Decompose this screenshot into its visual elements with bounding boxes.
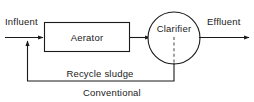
- influent-label: Influent: [5, 16, 38, 27]
- aerator-label: Aerator: [71, 32, 104, 43]
- recycle-sludge-label: Recycle sludge: [66, 68, 133, 79]
- effluent-label: Effluent: [207, 16, 241, 27]
- process-flow-diagram: Influent Aerator Clarifier Effluent Recy…: [0, 0, 254, 102]
- diagram-canvas: Influent Aerator Clarifier Effluent Recy…: [0, 0, 254, 102]
- diagram-caption: Conventional: [83, 87, 141, 98]
- clarifier-label: Clarifier: [157, 23, 192, 34]
